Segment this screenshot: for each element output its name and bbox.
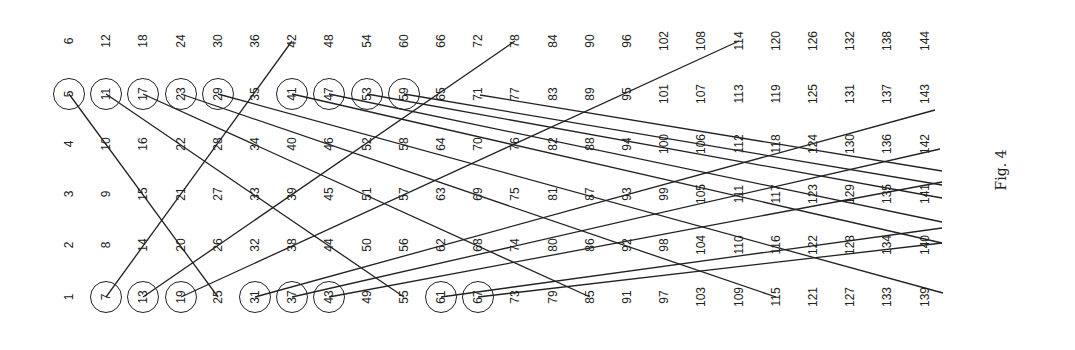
grid-number: 37	[284, 282, 300, 312]
grid-number: 62	[433, 230, 449, 260]
grid-number: 126	[805, 26, 821, 56]
grid-number: 19	[173, 282, 189, 312]
grid-number: 128	[842, 230, 858, 260]
grid-number: 7	[98, 282, 114, 312]
grid-number: 28	[210, 129, 226, 159]
grid-number: 20	[173, 230, 189, 260]
grid-number: 99	[656, 179, 672, 209]
grid-number: 142	[917, 129, 933, 159]
grid-number: 54	[359, 26, 375, 56]
grid-number: 42	[284, 26, 300, 56]
grid-number: 110	[731, 230, 747, 260]
grid-number: 61	[433, 282, 449, 312]
grid-number: 15	[135, 179, 151, 209]
grid-number: 30	[210, 26, 226, 56]
grid-number: 38	[284, 230, 300, 260]
grid-number: 48	[321, 26, 337, 56]
grid-number: 13	[135, 282, 151, 312]
grid-number: 29	[210, 79, 226, 109]
grid-number: 81	[545, 179, 561, 209]
grid-number: 97	[656, 282, 672, 312]
grid-number: 33	[247, 179, 263, 209]
grid-number: 36	[247, 26, 263, 56]
grid-number: 116	[768, 230, 784, 260]
grid-number: 133	[879, 282, 895, 312]
figure-caption: Fig. 4	[993, 140, 1013, 200]
grid-number: 96	[619, 26, 635, 56]
grid-number: 141	[917, 179, 933, 209]
grid-number: 84	[545, 26, 561, 56]
grid-number: 144	[917, 26, 933, 56]
grid-number: 100	[656, 129, 672, 159]
grid-number: 57	[396, 179, 412, 209]
grid-number: 25	[210, 282, 226, 312]
grid-number: 70	[470, 129, 486, 159]
grid-number: 78	[507, 26, 523, 56]
grid-number: 103	[693, 282, 709, 312]
grid-number: 17	[135, 79, 151, 109]
grid-number: 130	[842, 129, 858, 159]
grid-number: 115	[768, 282, 784, 312]
grid-number: 101	[656, 79, 672, 109]
grid-number: 64	[433, 129, 449, 159]
grid-number: 124	[805, 129, 821, 159]
grid-number: 88	[582, 129, 598, 159]
grid-number: 109	[731, 282, 747, 312]
grid-number: 77	[507, 79, 523, 109]
grid-number: 107	[693, 79, 709, 109]
grid-number: 51	[359, 179, 375, 209]
grid-number: 113	[731, 79, 747, 109]
grid-number: 26	[210, 230, 226, 260]
grid-number: 93	[619, 179, 635, 209]
grid-number: 75	[507, 179, 523, 209]
grid-number: 23	[173, 79, 189, 109]
grid-number: 123	[805, 179, 821, 209]
grid-number: 125	[805, 79, 821, 109]
grid-number: 92	[619, 230, 635, 260]
grid-number: 137	[879, 79, 895, 109]
grid-number: 27	[210, 179, 226, 209]
grid-number: 3	[61, 179, 77, 209]
grid-number: 45	[321, 179, 337, 209]
grid-number: 139	[917, 282, 933, 312]
grid-number: 140	[917, 230, 933, 260]
grid-number: 118	[768, 129, 784, 159]
grid-number: 143	[917, 79, 933, 109]
grid-number: 14	[135, 230, 151, 260]
grid-number: 21	[173, 179, 189, 209]
grid-number: 83	[545, 79, 561, 109]
grid-number: 24	[173, 26, 189, 56]
grid-number: 49	[359, 282, 375, 312]
grid-number: 32	[247, 230, 263, 260]
grid-number: 85	[582, 282, 598, 312]
connection-lines	[0, 0, 1075, 350]
grid-number: 79	[545, 282, 561, 312]
grid-number: 1	[61, 282, 77, 312]
grid-number: 114	[731, 26, 747, 56]
grid-number: 102	[656, 26, 672, 56]
connection-line	[292, 149, 940, 297]
grid-number: 68	[470, 230, 486, 260]
grid-number: 95	[619, 79, 635, 109]
grid-number: 131	[842, 79, 858, 109]
grid-number: 4	[61, 129, 77, 159]
grid-number: 132	[842, 26, 858, 56]
grid-number: 16	[135, 129, 151, 159]
grid-number: 46	[321, 129, 337, 159]
grid-number: 121	[805, 282, 821, 312]
grid-number: 94	[619, 129, 635, 159]
grid-number: 122	[805, 230, 821, 260]
grid-number: 31	[247, 282, 263, 312]
grid-number: 90	[582, 26, 598, 56]
grid-number: 104	[693, 230, 709, 260]
grid-number: 66	[433, 26, 449, 56]
grid-number: 58	[396, 129, 412, 159]
grid-number: 8	[98, 230, 114, 260]
grid-number: 35	[247, 79, 263, 109]
grid-number: 86	[582, 230, 598, 260]
grid-number: 59	[396, 79, 412, 109]
grid-number: 135	[879, 179, 895, 209]
grid-number: 98	[656, 230, 672, 260]
grid-number: 39	[284, 179, 300, 209]
grid-number: 129	[842, 179, 858, 209]
